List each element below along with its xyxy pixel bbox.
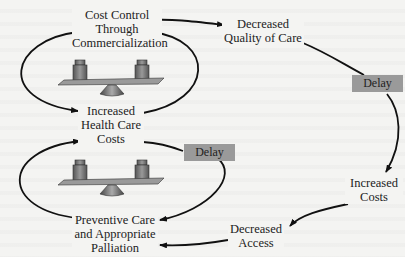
node-text: and Appropriate — [72, 227, 158, 241]
arrow-access-to-preventive — [160, 240, 228, 245]
arrow-increasedcosts-to-access — [290, 204, 348, 226]
node-text: Increased — [78, 104, 144, 118]
node-text: Through — [72, 22, 162, 36]
node-text: Preventive Care — [72, 213, 158, 227]
node-text: Increased — [345, 176, 403, 190]
node-text: Decreased — [222, 17, 304, 31]
node-text: Health Care — [78, 118, 144, 132]
balance-scale-icon — [58, 58, 166, 98]
delay-box-upper: Delay — [352, 75, 403, 92]
node-text: Costs — [78, 132, 144, 146]
node-increased-costs: Increased Costs — [345, 176, 403, 204]
node-text: Cost Control — [72, 8, 162, 22]
node-text: Commercialization — [72, 36, 162, 50]
node-increased-health-care-costs: Increased Health Care Costs — [78, 104, 144, 146]
node-text: Decreased — [228, 222, 284, 236]
node-text: Quality of Care — [222, 31, 304, 45]
arrow-delay-to-increasedcosts — [386, 94, 399, 172]
node-text: Costs — [345, 190, 403, 204]
node-decreased-quality: Decreased Quality of Care — [222, 17, 304, 45]
node-cost-control: Cost Control Through Commercialization — [72, 8, 162, 50]
delay-box-lower: Delay — [184, 144, 235, 161]
node-decreased-access: Decreased Access — [228, 222, 284, 250]
arrow-quality-to-delay — [303, 43, 364, 75]
node-preventive-care: Preventive Care and Appropriate Palliati… — [72, 213, 158, 255]
node-text: Access — [228, 236, 284, 250]
balance-scale-icon — [58, 158, 166, 198]
arrow-hccosts-to-delay — [143, 142, 183, 151]
node-text: Palliation — [72, 241, 158, 255]
causal-arrows — [0, 0, 405, 257]
arrow-delay-to-preventive — [160, 158, 225, 220]
